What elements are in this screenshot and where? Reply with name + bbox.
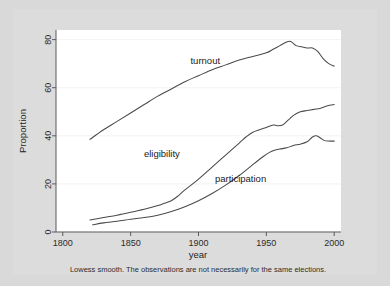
x-axis-title: year: [189, 249, 207, 260]
y-tick-label-0: 0: [43, 229, 53, 234]
y-tick-label-40: 40: [43, 131, 53, 141]
x-axis-ticks: 18001850190019502000: [53, 232, 344, 248]
series-label-eligibility: eligibility: [144, 148, 180, 159]
lowess-line-chart: 020406080 18001850190019502000 turnoutel…: [0, 0, 390, 286]
y-tick-label-20: 20: [43, 179, 53, 189]
x-tick-label-1950: 1950: [256, 238, 276, 248]
y-axis-ticks: 020406080: [43, 35, 56, 235]
chart-caption: Lowess smooth. The observations are not …: [70, 265, 326, 274]
y-tick-label-80: 80: [43, 35, 53, 45]
y-tick-label-60: 60: [43, 83, 53, 93]
x-tick-label-1900: 1900: [188, 238, 208, 248]
x-tick-label-2000: 2000: [324, 238, 344, 248]
x-tick-label-1850: 1850: [121, 238, 141, 248]
figure-container: 020406080 18001850190019502000 turnoutel…: [0, 0, 390, 286]
series-label-participation: participation: [215, 173, 266, 184]
series-label-turnout: turnout: [190, 55, 220, 66]
x-tick-label-1800: 1800: [53, 238, 73, 248]
y-axis-title: Proportion: [17, 109, 28, 153]
